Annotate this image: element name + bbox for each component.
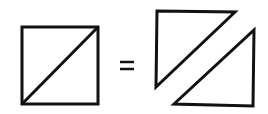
upper-left-triangle [156, 11, 235, 87]
diagram-canvas [0, 0, 268, 114]
equals-sign [120, 62, 134, 69]
lower-right-triangle [174, 30, 254, 106]
two-triangles [156, 11, 254, 106]
diagonal-line [22, 27, 98, 104]
square-with-diagonal [22, 27, 98, 104]
